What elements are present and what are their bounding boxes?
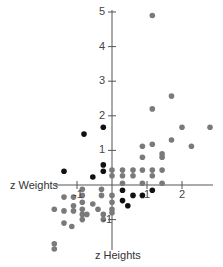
data-point-gray <box>169 137 175 143</box>
data-point-gray <box>150 141 156 147</box>
data-point-gray <box>159 155 165 161</box>
data-point-gray <box>179 124 185 130</box>
y-tick-label: 1 <box>91 143 105 155</box>
data-point-black <box>81 131 87 137</box>
data-point-gray <box>84 212 90 218</box>
data-point-gray <box>99 186 105 192</box>
data-point-black <box>101 168 107 174</box>
data-point-gray <box>61 194 67 200</box>
data-point-gray <box>140 143 146 149</box>
data-point-gray <box>95 206 101 212</box>
data-point-gray <box>80 217 86 223</box>
data-point-gray <box>130 167 136 173</box>
y-tick-label: 5 <box>91 5 105 17</box>
data-point-gray <box>109 200 115 206</box>
x-tick-label: 1 <box>144 188 150 200</box>
data-point-black <box>61 168 67 174</box>
plot-area <box>0 0 223 267</box>
y-axis-label: z Heights <box>95 249 141 261</box>
data-point-gray <box>150 167 156 173</box>
data-point-black <box>150 187 156 193</box>
y-tick-label: -1 <box>98 213 112 225</box>
data-point-gray <box>150 173 156 179</box>
data-point-gray <box>169 93 175 99</box>
y-tick-label: 2 <box>91 109 105 121</box>
data-point-gray <box>90 201 96 207</box>
data-point-black <box>90 174 96 180</box>
data-point-gray <box>140 181 146 187</box>
data-point-gray <box>52 206 58 212</box>
data-point-gray <box>109 173 115 179</box>
data-point-gray <box>109 167 115 173</box>
y-tick-label: 3 <box>91 74 105 86</box>
data-point-gray <box>150 13 156 19</box>
data-point-gray <box>80 200 86 206</box>
data-point-gray <box>52 246 58 252</box>
data-point-gray <box>159 167 165 173</box>
data-point-gray <box>140 167 146 173</box>
data-point-gray <box>71 208 77 214</box>
data-point-gray <box>52 241 58 247</box>
data-point-gray <box>120 173 126 179</box>
data-point-black <box>101 124 107 130</box>
x-tick-label: 2 <box>179 188 185 200</box>
data-point-gray <box>71 203 77 209</box>
data-point-gray <box>61 220 67 226</box>
x-axis-label: z Weights <box>10 179 58 191</box>
data-point-black <box>125 203 131 209</box>
data-point-black <box>120 198 126 204</box>
data-point-gray <box>159 181 165 187</box>
data-point-gray <box>99 193 105 199</box>
data-point-gray <box>140 155 146 161</box>
data-point-gray <box>130 173 136 179</box>
x-tick-label: -1 <box>73 188 83 200</box>
data-point-gray <box>69 224 75 230</box>
data-point-gray <box>189 143 195 149</box>
data-point-gray <box>61 208 67 214</box>
data-point-gray <box>109 193 115 199</box>
data-point-gray <box>120 181 126 187</box>
data-point-black <box>101 162 107 168</box>
data-point-gray <box>120 167 126 173</box>
data-point-gray <box>80 206 86 212</box>
y-tick-label: 4 <box>91 40 105 52</box>
data-point-black <box>120 187 126 193</box>
scatter-chart: z Weights z Heights -112345 -112 <box>0 0 223 267</box>
data-point-gray <box>150 106 156 112</box>
data-point-black <box>130 193 136 199</box>
data-point-gray <box>207 124 213 130</box>
